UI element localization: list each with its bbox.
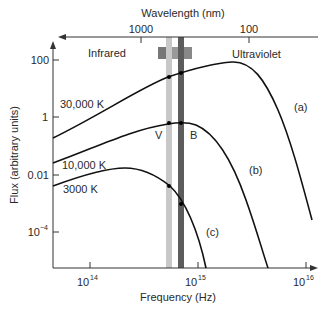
y-tick-label-1: 1 bbox=[42, 111, 48, 123]
tag-c: (c) bbox=[206, 226, 219, 238]
label-3000k: 3000 K bbox=[63, 183, 99, 195]
top-axis-arrow-icon bbox=[58, 34, 66, 40]
band-b-label: B bbox=[190, 129, 197, 141]
swatch-right bbox=[184, 47, 192, 59]
tag-a: (a) bbox=[294, 101, 307, 113]
y-tick-label-1e-4-base: 10 bbox=[28, 226, 40, 238]
infrared-label: Infrared bbox=[88, 47, 126, 59]
x-axis-title: Frequency (Hz) bbox=[140, 291, 216, 303]
v-band bbox=[166, 37, 172, 268]
x-axis-arrow-icon bbox=[310, 265, 318, 271]
x-tick-label-14-base: 10 bbox=[77, 276, 89, 288]
dot-c-v bbox=[167, 184, 171, 188]
ultraviolet-label: Ultraviolet bbox=[232, 48, 281, 60]
x-tick-label-16-base: 10 bbox=[293, 276, 305, 288]
dot-a-v bbox=[167, 75, 171, 79]
dot-a-b bbox=[179, 71, 183, 75]
band-v-label: V bbox=[155, 129, 163, 141]
y-tick-label-100: 100 bbox=[31, 54, 49, 66]
x-tick-label-14-exp: 14 bbox=[90, 274, 98, 281]
label-30000k: 30,000 K bbox=[60, 98, 105, 110]
curve-10000k bbox=[53, 123, 268, 268]
x-tick-label-15-base: 10 bbox=[185, 276, 197, 288]
swatch-mid bbox=[172, 47, 178, 59]
y-axis-arrow-icon bbox=[50, 41, 56, 49]
y-axis-title: Flux (arbitrary units) bbox=[8, 106, 20, 204]
top-tick-label-1000: 1000 bbox=[129, 23, 153, 35]
blackbody-chart: 1000 100 Wavelength (nm) 100 1 0.01 10 −… bbox=[0, 0, 328, 311]
dot-b-v bbox=[167, 121, 171, 125]
x-tick-label-16-exp: 16 bbox=[306, 274, 314, 281]
tag-b: (b) bbox=[249, 164, 262, 176]
dot-b-b bbox=[179, 121, 183, 125]
label-10000k: 10,000 K bbox=[62, 159, 107, 171]
top-tick-label-100: 100 bbox=[240, 23, 258, 35]
y-tick-label-001: 0.01 bbox=[28, 169, 49, 181]
top-axis-title: Wavelength (nm) bbox=[141, 7, 224, 19]
swatch-left bbox=[158, 47, 166, 59]
x-tick-label-15-exp: 15 bbox=[198, 274, 206, 281]
y-tick-label-1e-4-exp: −4 bbox=[40, 224, 48, 231]
dot-c-b bbox=[179, 202, 183, 206]
